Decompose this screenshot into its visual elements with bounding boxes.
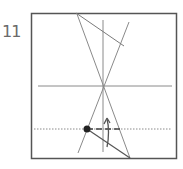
fold-diagram bbox=[0, 0, 183, 169]
reference-point-dot bbox=[84, 126, 91, 133]
fold-arrow-icon bbox=[107, 119, 109, 147]
